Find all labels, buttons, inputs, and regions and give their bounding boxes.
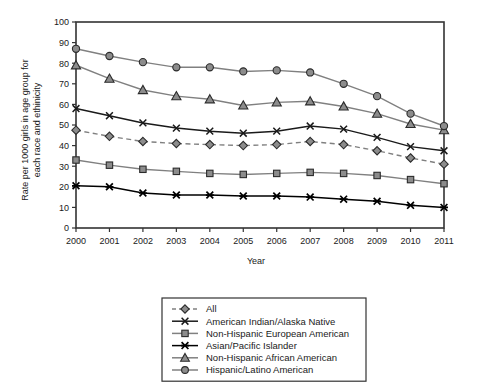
data-point-circle-marker	[307, 69, 314, 76]
data-point-square-marker	[407, 176, 413, 182]
x-tick-label: 2009	[367, 236, 387, 246]
y-tick-label: 20	[59, 182, 69, 192]
x-tick-label: 2010	[401, 236, 421, 246]
data-point-square-marker	[73, 157, 79, 163]
data-point-circle-marker	[373, 93, 380, 100]
y-tick-label: 10	[59, 203, 69, 213]
data-point-square-marker	[173, 168, 179, 174]
x-tick-label: 2002	[133, 236, 153, 246]
legend-item-label: Non-Hispanic African American	[206, 352, 337, 363]
data-point-circle-marker	[440, 122, 447, 129]
data-point-circle-marker	[340, 80, 347, 87]
y-tick-label: 60	[59, 100, 69, 110]
data-point-square-marker	[340, 170, 346, 176]
data-point-circle-marker	[106, 52, 113, 59]
x-tick-label: 2011	[434, 236, 453, 246]
y-tick-label: 30	[59, 162, 69, 172]
x-tick-label: 2001	[99, 236, 119, 246]
x-tick-label: 2000	[66, 236, 86, 246]
x-tick-label: 2005	[233, 236, 253, 246]
data-point-square-marker	[307, 169, 313, 175]
legend-item-label: All	[206, 303, 217, 314]
data-point-square-marker	[441, 181, 447, 187]
data-point-circle-marker	[139, 59, 146, 66]
data-point-circle-marker	[240, 68, 247, 75]
x-tick-label: 2007	[300, 236, 320, 246]
data-point-square-marker	[240, 171, 246, 177]
legend-item-label: Asian/Pacific Islander	[206, 340, 297, 351]
x-tick-label: 2004	[200, 236, 220, 246]
data-point-circle-marker	[173, 64, 180, 71]
data-point-circle-marker	[273, 67, 280, 74]
x-tick-label: 2006	[267, 236, 287, 246]
y-tick-label: 50	[59, 120, 69, 130]
data-point-square-marker	[207, 170, 213, 176]
data-point-circle-marker	[206, 64, 213, 71]
y-tick-label: 100	[54, 17, 69, 27]
y-tick-label: 0	[64, 223, 69, 233]
data-point-circle-marker	[182, 367, 189, 374]
y-tick-label: 80	[59, 59, 69, 69]
y-axis-title-line1: Rate per 1000 girls in age group for	[20, 59, 30, 201]
y-tick-label: 90	[59, 38, 69, 48]
chart-legend: AllAmerican Indian/Alaska NativeNon-Hisp…	[162, 298, 366, 381]
legend-item-label: Non-Hispanic European American	[206, 328, 349, 339]
data-point-square-marker	[274, 170, 280, 176]
data-point-square-marker	[182, 330, 188, 336]
x-tick-label: 2003	[166, 236, 186, 246]
x-axis-title: Year	[247, 256, 265, 266]
y-tick-label: 40	[59, 141, 69, 151]
legend-item-label: American Indian/Alaska Native	[206, 316, 335, 327]
chart-figure: Rate per 1000 girls in age group for eac…	[0, 0, 480, 384]
data-point-circle-marker	[407, 110, 414, 117]
legend-item-label: Hispanic/Latino American	[206, 364, 313, 375]
y-axis-title-line2: each race and ethinicity	[32, 82, 42, 177]
y-tick-label: 70	[59, 79, 69, 89]
x-tick-label: 2008	[334, 236, 354, 246]
data-point-circle-marker	[72, 45, 79, 52]
data-point-square-marker	[140, 166, 146, 172]
data-point-square-marker	[106, 162, 112, 168]
data-point-square-marker	[374, 172, 380, 178]
